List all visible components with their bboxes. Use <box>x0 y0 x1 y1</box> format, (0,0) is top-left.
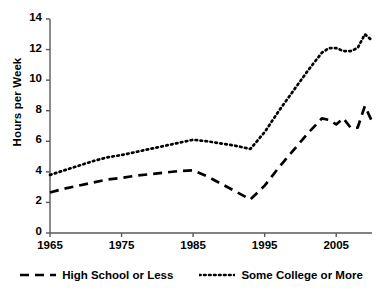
chart-legend: High School or Less Some College or More <box>0 262 383 288</box>
legend-item: High School or Less <box>20 269 173 281</box>
chart-figure: Hours per Week High School or Less Some … <box>0 0 383 295</box>
x-axis-tick-label: 1965 <box>30 239 70 251</box>
x-axis-tick-label: 1975 <box>102 239 142 251</box>
legend-label: High School or Less <box>62 269 173 281</box>
y-axis-tick-label: 12 <box>20 42 42 54</box>
y-axis-tick-label: 8 <box>20 103 42 115</box>
x-axis-tick-label: 1995 <box>245 239 285 251</box>
y-axis-tick-label: 10 <box>20 72 42 84</box>
y-axis-tick-label: 14 <box>20 11 42 23</box>
legend-item: Some College or More <box>199 269 362 281</box>
legend-swatch-dotted <box>199 270 235 280</box>
x-axis-tick-label: 2005 <box>316 239 356 251</box>
legend-label: Some College or More <box>241 269 362 281</box>
y-axis-tick-label: 0 <box>20 225 42 237</box>
series-line <box>50 106 372 199</box>
y-axis-tick-label: 2 <box>20 194 42 206</box>
legend-swatch-dashed <box>20 270 56 280</box>
x-axis-tick-label: 1985 <box>173 239 213 251</box>
y-axis-tick-label: 4 <box>20 164 42 176</box>
series-line <box>50 34 372 175</box>
y-axis-tick-label: 6 <box>20 133 42 145</box>
